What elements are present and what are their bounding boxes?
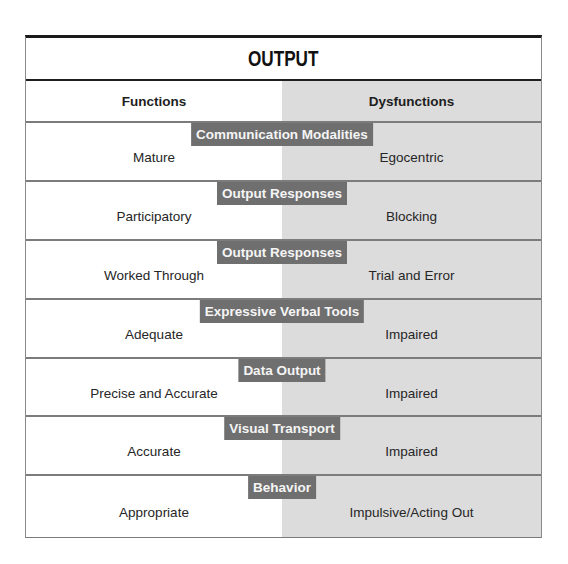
function-cell: Mature <box>26 143 282 171</box>
function-cell: Precise and Accurate <box>26 379 282 407</box>
table-title: OUTPUT <box>248 46 319 72</box>
dysfunction-cell: Blocking <box>282 202 541 230</box>
function-cell: Appropriate <box>26 498 282 526</box>
table-row: Communication Modalities Mature Egocentr… <box>26 121 541 180</box>
table-row: Behavior Appropriate Impulsive/Acting Ou… <box>26 474 541 538</box>
column-header-dysfunctions: Dysfunctions <box>282 81 541 121</box>
function-cell: Adequate <box>26 320 282 348</box>
function-cell: Participatory <box>26 202 282 230</box>
column-header-functions: Functions <box>26 81 282 121</box>
column-header-row: Functions Dysfunctions <box>26 81 541 121</box>
table-row: Output Responses Worked Through Trial an… <box>26 239 541 298</box>
category-tag: Behavior <box>248 476 316 499</box>
dysfunction-cell: Impaired <box>282 320 541 348</box>
output-table: OUTPUT Functions Dysfunctions Communicat… <box>25 35 542 538</box>
dysfunction-cell: Impulsive/Acting Out <box>282 498 541 526</box>
dysfunction-cell: Impaired <box>282 379 541 407</box>
dysfunction-cell: Impaired <box>282 437 541 465</box>
title-row: OUTPUT <box>26 38 541 81</box>
table-row: Data Output Precise and Accurate Impaire… <box>26 357 541 416</box>
dysfunction-cell: Egocentric <box>282 143 541 171</box>
function-cell: Worked Through <box>26 261 282 289</box>
dysfunction-cell: Trial and Error <box>282 261 541 289</box>
table-row: Output Responses Participatory Blocking <box>26 180 541 239</box>
table-row: Visual Transport Accurate Impaired <box>26 415 541 474</box>
table-row: Expressive Verbal Tools Adequate Impaire… <box>26 298 541 357</box>
function-cell: Accurate <box>26 437 282 465</box>
